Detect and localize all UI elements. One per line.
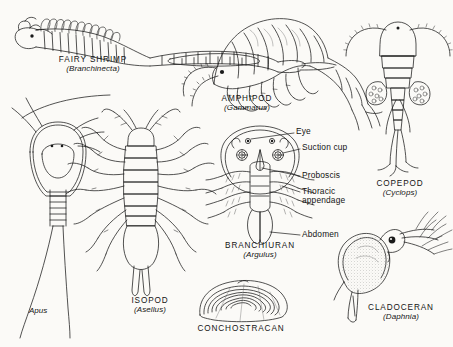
label-apus: Apus: [29, 306, 47, 315]
label-conchostracan-common: CONCHOSTRACAN: [185, 325, 297, 334]
illustration-plate: FAIRY SHRIMP (Branchinecta) AMPHIPOD (Ga…: [0, 0, 453, 347]
callout-abdomen: Abdomen: [302, 230, 339, 239]
label-cladoceran-genus: (Daphnia): [353, 313, 449, 322]
label-copepod: COPEPOD (Cyclops): [352, 180, 448, 197]
callout-suction-cup: Suction cup: [302, 143, 347, 152]
crustacea-artwork: [0, 0, 453, 347]
label-copepod-genus: (Cyclops): [352, 189, 448, 198]
figure-isopod: [66, 109, 216, 296]
label-conchostracan: CONCHOSTRACAN: [185, 325, 297, 334]
figure-copepod: [344, 22, 452, 176]
label-fairy-shrimp-genus: (Branchinecta): [33, 65, 153, 74]
callout-thoracic-appendage-line2: appendage: [302, 196, 345, 205]
label-branchiuran: BRANCHIURAN (Argulus): [205, 242, 315, 259]
label-branchiuran-genus: (Argulus): [205, 251, 315, 260]
label-isopod-genus: (Asellus): [105, 306, 195, 315]
callout-eye: Eye: [296, 127, 311, 136]
label-amphipod-genus: (Gammarus): [192, 104, 302, 113]
label-fairy-shrimp: FAIRY SHRIMP (Branchinecta): [33, 56, 153, 73]
label-isopod: ISOPOD (Asellus): [105, 297, 195, 314]
label-cladoceran: CLADOCERAN (Daphnia): [353, 304, 449, 321]
figure-amphipod: [182, 19, 382, 130]
label-amphipod: AMPHIPOD (Gammarus): [192, 95, 302, 112]
figure-branchiuran: [206, 126, 314, 244]
callout-proboscis: Proboscis: [302, 171, 340, 180]
callout-thoracic-appendage: Thoracic appendage: [302, 187, 345, 206]
figure-conchostracan: [200, 280, 288, 321]
